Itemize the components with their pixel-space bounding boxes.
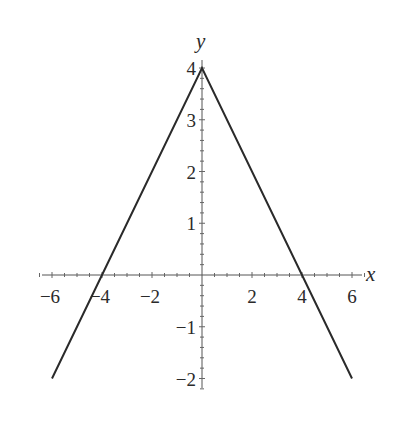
x-tick-label: 2 — [247, 286, 257, 307]
x-tick-label: −2 — [140, 286, 160, 307]
y-tick-label: 2 — [187, 162, 197, 183]
y-tick-labels: 4321−1−2 — [176, 58, 197, 390]
x-tick-label: 4 — [297, 286, 307, 307]
x-tick-label: −6 — [40, 286, 60, 307]
y-tick-label: 4 — [187, 58, 197, 79]
x-tick-label: −4 — [90, 286, 111, 307]
x-tick-label: 6 — [347, 286, 357, 307]
y-tick-label: −2 — [176, 369, 196, 390]
plot-area: −6−4−2246 4321−1−2 x y — [0, 0, 402, 422]
y-tick-label: 3 — [187, 110, 197, 131]
y-tick-label: 1 — [187, 213, 197, 234]
y-tick-label: −1 — [176, 317, 196, 338]
axes — [40, 60, 365, 389]
y-axis-label: y — [194, 29, 206, 53]
x-axis-label: x — [365, 262, 376, 286]
